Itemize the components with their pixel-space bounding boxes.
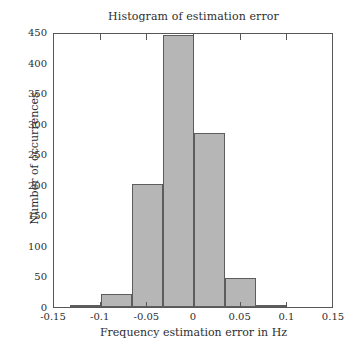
histogram-bar xyxy=(225,278,256,307)
x-tick-mark xyxy=(193,302,194,308)
chart-title: Histogram of estimation error xyxy=(53,10,334,23)
y-tick-label: 300 xyxy=(7,120,47,130)
y-tick-label: 350 xyxy=(7,89,47,99)
x-tick-mark xyxy=(100,302,101,308)
histogram-figure: Histogram of estimation error Number of … xyxy=(0,0,359,355)
x-tick-label: -0.05 xyxy=(120,311,172,322)
x-tick-label: 0.1 xyxy=(260,311,312,322)
x-tick-label: -0.1 xyxy=(74,311,126,322)
x-axis-label: Frequency estimation error in Hz xyxy=(53,326,334,339)
plot-area xyxy=(53,33,333,308)
y-tick-label: 100 xyxy=(7,242,47,252)
x-tick-mark xyxy=(193,34,194,40)
histogram-bar xyxy=(132,184,163,307)
y-tick-label: 400 xyxy=(7,59,47,69)
y-tick-label: 50 xyxy=(7,272,47,282)
x-tick-mark xyxy=(146,34,147,40)
histogram-bar xyxy=(70,305,101,307)
y-tick-label: 250 xyxy=(7,150,47,160)
y-tick-label: 200 xyxy=(7,181,47,191)
y-tick-label: 150 xyxy=(7,211,47,221)
x-tick-mark xyxy=(286,34,287,40)
x-tick-label: 0.15 xyxy=(307,311,359,322)
x-tick-mark xyxy=(146,302,147,308)
histogram-bar xyxy=(194,133,225,307)
histogram-bars xyxy=(54,34,332,307)
x-tick-mark xyxy=(240,34,241,40)
x-tick-mark xyxy=(100,34,101,40)
x-tick-label: 0 xyxy=(167,311,219,322)
histogram-bar xyxy=(163,35,194,307)
y-tick-label: 450 xyxy=(7,28,47,38)
x-tick-label: -0.15 xyxy=(27,311,79,322)
histogram-bar xyxy=(256,305,287,307)
x-tick-label: 0.05 xyxy=(214,311,266,322)
x-tick-mark xyxy=(240,302,241,308)
histogram-bar xyxy=(101,294,132,307)
x-tick-mark xyxy=(286,302,287,308)
